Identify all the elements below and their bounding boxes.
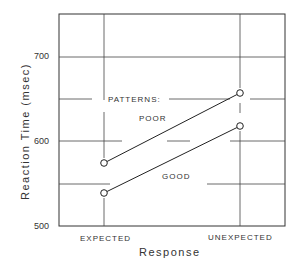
series-label-poor: POOR	[139, 114, 167, 123]
ytick-700: 700	[34, 51, 49, 61]
ytick-600: 600	[34, 136, 49, 146]
plot-frame	[59, 14, 285, 226]
series-poor-line	[107, 95, 237, 162]
series-label-good: GOOD	[162, 172, 190, 181]
xtick-expected: EXPECTED	[80, 234, 131, 243]
y-axis-label: Reaction Time (msec)	[19, 70, 31, 200]
point-good-expected	[101, 190, 108, 197]
xtick-unexpected: UNEXPECTED	[208, 233, 273, 242]
x-axis-label: Response	[139, 246, 201, 258]
point-poor-unexpected	[237, 90, 244, 97]
series-good-line	[107, 128, 237, 192]
legend-title: PATTERNS:	[108, 95, 161, 104]
ytick-500: 500	[34, 221, 49, 231]
point-good-unexpected	[237, 123, 244, 130]
point-poor-expected	[101, 160, 108, 167]
